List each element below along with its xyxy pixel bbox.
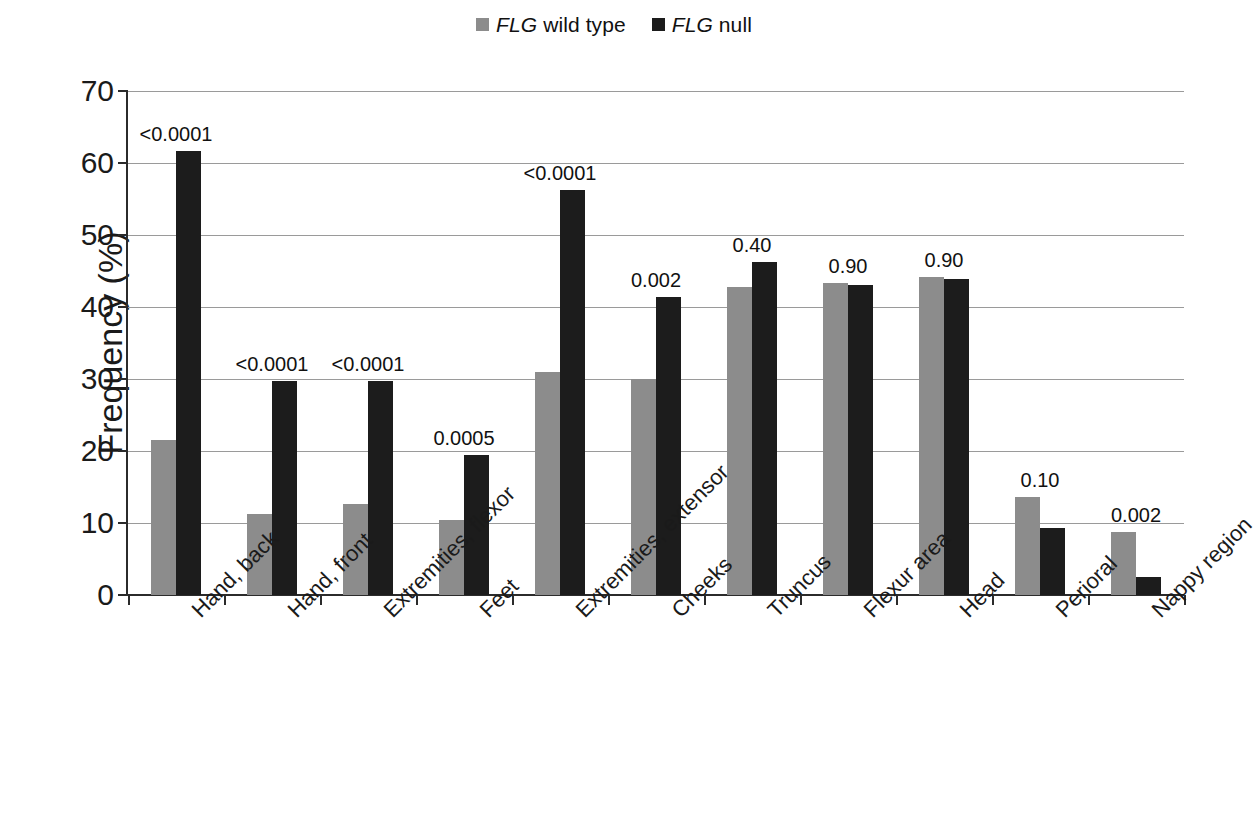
legend-item-null: FLG null	[652, 14, 752, 35]
bar-null[interactable]	[752, 262, 777, 595]
bar-group: 0.10	[992, 91, 1088, 595]
bar-pair	[992, 91, 1088, 595]
bar-null[interactable]	[176, 151, 201, 595]
legend-swatch-wild-type	[476, 18, 489, 31]
bar-pair	[128, 91, 224, 595]
bar-pair	[224, 91, 320, 595]
p-value-annotation: <0.0001	[224, 354, 320, 374]
p-value-annotation: 0.90	[800, 256, 896, 276]
y-tick-label-60: 60	[81, 148, 114, 178]
bar-wild-type[interactable]	[151, 440, 176, 595]
bar-group: 0.40	[704, 91, 800, 595]
chart-legend: FLG wild type FLG null	[0, 14, 1228, 35]
bar-null[interactable]	[272, 381, 297, 595]
p-value-annotation: 0.0005	[416, 428, 512, 448]
bar-pair	[800, 91, 896, 595]
bar-group: <0.0001	[512, 91, 608, 595]
bar-group: <0.0001	[128, 91, 224, 595]
y-tick-mark-0	[118, 594, 128, 596]
legend-swatch-null	[652, 18, 665, 31]
bar-group: <0.0001	[224, 91, 320, 595]
bar-pair	[896, 91, 992, 595]
bar-group: <0.0001	[320, 91, 416, 595]
bar-pair	[320, 91, 416, 595]
legend-rest-null: null	[713, 13, 752, 36]
legend-gene-italic-wild-type: FLG	[496, 13, 537, 36]
y-tick-label-10: 10	[81, 508, 114, 538]
p-value-annotation: 0.10	[992, 470, 1088, 490]
bar-wild-type[interactable]	[727, 287, 752, 595]
y-tick-mark-40	[118, 306, 128, 308]
y-tick-mark-70	[118, 90, 128, 92]
p-value-annotation: <0.0001	[320, 354, 416, 374]
p-value-annotation: 0.90	[896, 250, 992, 270]
legend-gene-italic-null: FLG	[672, 13, 713, 36]
bar-group: 0.002	[1088, 91, 1184, 595]
p-value-annotation: <0.0001	[128, 124, 224, 144]
p-value-annotation: <0.0001	[512, 163, 608, 183]
bar-wild-type[interactable]	[535, 372, 560, 595]
legend-item-wild-type: FLG wild type	[476, 14, 626, 35]
y-tick-mark-60	[118, 162, 128, 164]
y-tick-label-70: 70	[81, 76, 114, 106]
y-axis-title-text: Frequency (%)	[93, 232, 127, 455]
y-tick-mark-20	[118, 450, 128, 452]
y-tick-label-30: 30	[81, 364, 114, 394]
y-tick-label-40: 40	[81, 292, 114, 322]
legend-label-wild-type: FLG wild type	[496, 14, 626, 35]
p-value-annotation: 0.40	[704, 235, 800, 255]
p-value-annotation: 0.002	[1088, 505, 1184, 525]
y-tick-label-20: 20	[81, 436, 114, 466]
bar-wild-type[interactable]	[823, 283, 848, 595]
x-axis-labels: Hand, backHand, frontExtremities, flexor…	[128, 606, 1184, 826]
y-tick-mark-30	[118, 378, 128, 380]
bar-group: 0.90	[896, 91, 992, 595]
bar-wild-type[interactable]	[1015, 497, 1040, 595]
bar-null[interactable]	[848, 285, 873, 595]
legend-label-null: FLG null	[672, 14, 752, 35]
x-tick-mark	[128, 595, 130, 605]
y-tick-label-0: 0	[97, 580, 114, 610]
bar-group: 0.90	[800, 91, 896, 595]
y-tick-label-50: 50	[81, 220, 114, 250]
bar-pair	[704, 91, 800, 595]
legend-rest-wild-type: wild type	[537, 13, 626, 36]
bar-null[interactable]	[1040, 528, 1065, 595]
y-tick-mark-10	[118, 522, 128, 524]
p-value-annotation: 0.002	[608, 270, 704, 290]
y-tick-mark-50	[118, 234, 128, 236]
bar-null[interactable]	[560, 190, 585, 595]
bar-null[interactable]	[368, 381, 393, 595]
